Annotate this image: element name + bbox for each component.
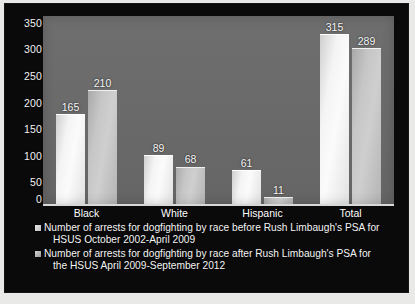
- bar-total-series1: [320, 34, 349, 204]
- value-label-black-series2: 210: [88, 78, 117, 89]
- y-tick-label: 0: [8, 194, 42, 204]
- y-tick-label: 350: [8, 18, 42, 28]
- value-label-total-series2: 289: [352, 36, 381, 47]
- y-tick-label: 250: [8, 71, 42, 81]
- legend-swatch-icon: [35, 251, 41, 257]
- bar-hispanic-series1: [232, 170, 261, 204]
- legend-label-series1: Number of arrests for dogfighting by rac…: [44, 222, 379, 247]
- bar-white-series2: [176, 167, 205, 205]
- value-label-total-series1: 315: [320, 22, 349, 33]
- value-label-white-series1: 89: [144, 143, 173, 154]
- y-tick-label: 100: [8, 151, 42, 161]
- x-tick-label-black: Black: [56, 207, 117, 219]
- bar-black-series2: [88, 90, 117, 204]
- plot-area: [43, 16, 394, 204]
- x-tick-label-hispanic: Hispanic: [232, 207, 293, 219]
- legend-label-series1-line2: HSUS October 2002-April 2009: [44, 234, 379, 246]
- x-axis-line: [43, 204, 394, 206]
- legend-label-series2-line1: Number of arrests for dogfighting by rac…: [44, 248, 371, 259]
- legend-label-series2-line2: the HSUS April 2009-September 2012: [44, 260, 371, 272]
- bar-black-series1: [56, 114, 85, 204]
- legend-item-series2: Number of arrests for dogfighting by rac…: [35, 248, 402, 273]
- legend-item-series1: Number of arrests for dogfighting by rac…: [35, 222, 402, 247]
- bar-total-series2: [352, 48, 381, 204]
- legend-swatch-icon: [35, 225, 41, 231]
- y-tick-label: 200: [8, 98, 42, 108]
- chart-figure: 350 300 250 200 150 100 50 0 165 210 89 …: [5, 4, 408, 292]
- x-tick-label-white: White: [144, 207, 205, 219]
- value-label-white-series2: 68: [176, 154, 205, 165]
- value-label-hispanic-series2: 11: [264, 185, 293, 196]
- y-tick-label: 150: [8, 124, 42, 134]
- value-label-hispanic-series1: 61: [232, 158, 261, 169]
- legend-label-series1-line1: Number of arrests for dogfighting by rac…: [44, 222, 379, 233]
- chart-legend: Number of arrests for dogfighting by rac…: [35, 222, 402, 274]
- legend-label-series2: Number of arrests for dogfighting by rac…: [44, 248, 371, 273]
- value-label-black-series1: 165: [56, 102, 85, 113]
- y-tick-label: 50: [8, 177, 42, 187]
- bar-white-series1: [144, 155, 173, 204]
- y-tick-label: 300: [8, 44, 42, 54]
- x-tick-label-total: Total: [320, 207, 381, 219]
- bar-hispanic-series2: [264, 197, 293, 204]
